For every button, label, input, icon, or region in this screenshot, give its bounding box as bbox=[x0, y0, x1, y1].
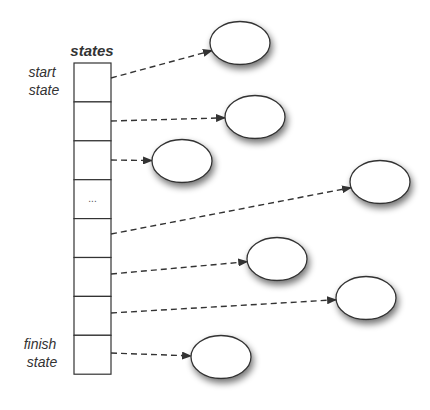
state-nodes bbox=[152, 22, 410, 379]
array-cell bbox=[74, 335, 111, 374]
array-cell bbox=[74, 258, 111, 297]
pointer-arrow bbox=[111, 51, 212, 78]
state-array-diagram: states start state finish state ... bbox=[0, 0, 430, 410]
array-cell bbox=[74, 296, 111, 335]
finish-state-label: finish state bbox=[24, 336, 61, 370]
state-node bbox=[336, 277, 396, 320]
state-node bbox=[225, 96, 285, 139]
pointer-arrow bbox=[111, 353, 191, 356]
pointer-arrow bbox=[111, 160, 152, 161]
array-cell bbox=[74, 141, 111, 180]
state-node bbox=[210, 22, 270, 65]
pointer-arrow bbox=[111, 188, 351, 234]
state-array: ... bbox=[74, 63, 111, 374]
start-state-label: start state bbox=[28, 64, 59, 98]
array-cell bbox=[74, 63, 111, 102]
state-pointers bbox=[111, 51, 351, 356]
pointer-arrow bbox=[111, 262, 247, 274]
state-node bbox=[191, 336, 251, 379]
array-cell bbox=[74, 219, 111, 258]
states-title: states bbox=[70, 42, 113, 59]
pointer-arrow bbox=[111, 300, 336, 313]
state-node bbox=[247, 238, 307, 281]
pointer-arrow bbox=[111, 118, 225, 121]
array-cell bbox=[74, 102, 111, 141]
ellipsis-text: ... bbox=[88, 193, 96, 204]
state-node bbox=[350, 161, 410, 204]
state-node bbox=[152, 140, 212, 183]
